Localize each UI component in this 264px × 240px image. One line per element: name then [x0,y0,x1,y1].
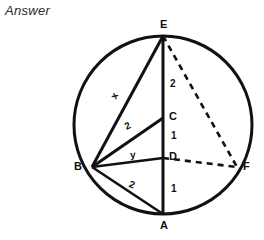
point-label-e: E [160,19,167,30]
geometry-figure [0,0,264,240]
point-label-b: B [74,161,82,172]
answer-figure-page: Answer E B F A C D x 2 y 2 2 1 1 [0,0,264,240]
length-label-da: 1 [171,184,177,194]
length-label-ec: 2 [170,79,176,89]
point-label-d: D [169,151,177,162]
point-label-c: C [169,111,177,122]
point-label-a: A [160,220,168,231]
length-label-bd: y [130,150,136,160]
segment-e-to-b [92,36,163,167]
segment-e-to-f-dashed [163,36,237,167]
length-label-cd: 1 [171,131,177,141]
point-label-f: F [243,161,250,172]
